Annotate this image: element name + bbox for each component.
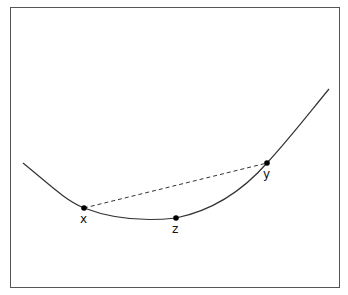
convex-function-diagram: x y z	[0, 0, 348, 295]
point-y	[264, 160, 270, 166]
chord-dashed-line	[84, 163, 267, 208]
point-x	[81, 205, 87, 211]
label-y: y	[263, 167, 270, 181]
label-x: x	[80, 212, 87, 226]
point-z	[173, 215, 179, 221]
convex-curve	[23, 89, 329, 220]
label-z: z	[172, 222, 178, 236]
